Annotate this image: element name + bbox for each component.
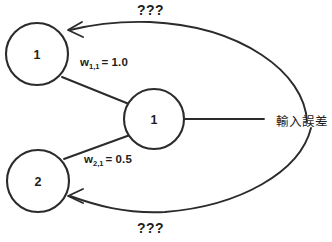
diagram-text-layer: w1,1= 1.0 w2,1= 0.5 ??? ??? 輸入誤差 <box>0 0 332 242</box>
weight-subscript-w21: 2,1 <box>93 159 103 168</box>
weight-label-w21: w2,1= 0.5 <box>84 153 132 168</box>
weight-symbol-w11: w <box>80 56 89 68</box>
weight-subscript-w11: 1,1 <box>89 62 99 71</box>
error-source-label: 輸入誤差 <box>276 111 328 130</box>
weight-label-w11: w1,1= 1.0 <box>80 56 128 71</box>
weight-value-w21: = 0.5 <box>105 153 131 165</box>
weight-symbol-w21: w <box>84 153 93 165</box>
weight-value-w11: = 1.0 <box>101 56 127 68</box>
diagram-canvas: 1 2 1 w1,1= 1.0 w2,1= 0.5 ??? ??? 輸入誤差 <box>0 0 332 242</box>
question-label-bottom: ??? <box>137 220 164 236</box>
question-label-top: ??? <box>137 2 164 18</box>
